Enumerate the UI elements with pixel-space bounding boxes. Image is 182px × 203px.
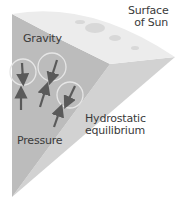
gravity-label: Gravity xyxy=(23,33,62,45)
surface-label: Surface of Sun xyxy=(128,5,168,29)
sun-wedge-diagram: Surface of Sun Gravity Pressure Hydrosta… xyxy=(0,0,182,203)
pressure-label: Pressure xyxy=(17,135,62,147)
sun-cross-section xyxy=(0,0,182,203)
equilibrium-label: Hydrostatic equilibrium xyxy=(85,113,146,137)
gravity-arrow-1 xyxy=(22,63,23,80)
